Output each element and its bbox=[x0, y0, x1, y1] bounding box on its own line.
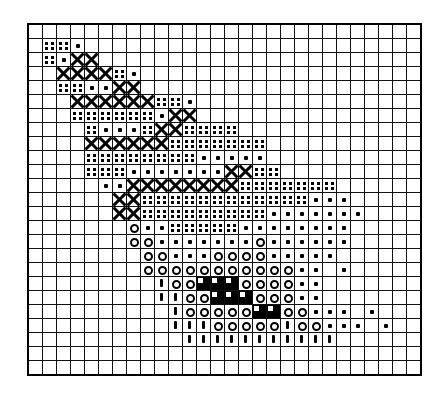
pattern-cell[interactable] bbox=[337, 95, 351, 109]
pattern-cell[interactable] bbox=[211, 319, 225, 333]
pattern-cell[interactable] bbox=[141, 39, 155, 53]
pattern-cell[interactable] bbox=[141, 53, 155, 67]
pattern-cell[interactable] bbox=[253, 137, 267, 151]
pattern-cell[interactable] bbox=[43, 39, 57, 53]
pattern-cell[interactable] bbox=[379, 221, 393, 235]
pattern-cell[interactable] bbox=[99, 39, 113, 53]
pattern-cell[interactable] bbox=[309, 207, 323, 221]
pattern-cell[interactable] bbox=[393, 137, 407, 151]
pattern-cell[interactable] bbox=[351, 333, 365, 347]
pattern-cell[interactable] bbox=[337, 53, 351, 67]
pattern-cell[interactable] bbox=[323, 291, 337, 305]
pattern-cell[interactable] bbox=[337, 277, 351, 291]
pattern-cell[interactable] bbox=[267, 333, 281, 347]
pattern-cell[interactable] bbox=[155, 347, 169, 361]
pattern-cell[interactable] bbox=[127, 109, 141, 123]
pattern-cell[interactable] bbox=[267, 193, 281, 207]
pattern-cell[interactable] bbox=[85, 277, 99, 291]
pattern-cell[interactable] bbox=[253, 235, 267, 249]
pattern-cell[interactable] bbox=[155, 53, 169, 67]
pattern-cell[interactable] bbox=[295, 277, 309, 291]
pattern-cell[interactable] bbox=[379, 39, 393, 53]
pattern-cell[interactable] bbox=[393, 319, 407, 333]
pattern-cell[interactable] bbox=[127, 221, 141, 235]
pattern-cell[interactable] bbox=[365, 95, 379, 109]
pattern-cell[interactable] bbox=[365, 179, 379, 193]
pattern-cell[interactable] bbox=[379, 25, 393, 39]
pattern-cell[interactable] bbox=[365, 109, 379, 123]
pattern-cell[interactable] bbox=[239, 39, 253, 53]
pattern-cell[interactable] bbox=[281, 25, 295, 39]
pattern-cell[interactable] bbox=[407, 137, 421, 151]
pattern-cell[interactable] bbox=[225, 123, 239, 137]
pattern-cell[interactable] bbox=[225, 95, 239, 109]
pattern-cell[interactable] bbox=[281, 263, 295, 277]
pattern-cell[interactable] bbox=[281, 53, 295, 67]
pattern-cell[interactable] bbox=[141, 207, 155, 221]
pattern-cell[interactable] bbox=[71, 221, 85, 235]
pattern-cell[interactable] bbox=[141, 67, 155, 81]
pattern-cell[interactable] bbox=[337, 235, 351, 249]
pattern-cell[interactable] bbox=[267, 221, 281, 235]
pattern-cell[interactable] bbox=[253, 263, 267, 277]
pattern-cell[interactable] bbox=[337, 151, 351, 165]
pattern-cell[interactable] bbox=[113, 137, 127, 151]
pattern-cell[interactable] bbox=[225, 347, 239, 361]
pattern-cell[interactable] bbox=[337, 67, 351, 81]
pattern-cell[interactable] bbox=[155, 319, 169, 333]
pattern-cell[interactable] bbox=[197, 95, 211, 109]
pattern-cell[interactable] bbox=[43, 207, 57, 221]
pattern-cell[interactable] bbox=[183, 123, 197, 137]
pattern-cell[interactable] bbox=[29, 137, 43, 151]
pattern-cell[interactable] bbox=[379, 81, 393, 95]
pattern-cell[interactable] bbox=[239, 347, 253, 361]
pattern-cell[interactable] bbox=[295, 221, 309, 235]
pattern-cell[interactable] bbox=[127, 67, 141, 81]
pattern-cell[interactable] bbox=[71, 67, 85, 81]
pattern-cell[interactable] bbox=[197, 249, 211, 263]
pattern-cell[interactable] bbox=[309, 39, 323, 53]
pattern-cell[interactable] bbox=[43, 53, 57, 67]
pattern-cell[interactable] bbox=[281, 235, 295, 249]
pattern-cell[interactable] bbox=[309, 137, 323, 151]
pattern-cell[interactable] bbox=[295, 291, 309, 305]
pattern-cell[interactable] bbox=[85, 361, 99, 375]
pattern-cell[interactable] bbox=[113, 95, 127, 109]
pattern-cell[interactable] bbox=[351, 291, 365, 305]
pattern-cell[interactable] bbox=[183, 347, 197, 361]
pattern-cell[interactable] bbox=[365, 25, 379, 39]
pattern-cell[interactable] bbox=[309, 277, 323, 291]
pattern-cell[interactable] bbox=[225, 67, 239, 81]
pattern-cell[interactable] bbox=[323, 109, 337, 123]
pattern-cell[interactable] bbox=[183, 53, 197, 67]
pattern-cell[interactable] bbox=[393, 109, 407, 123]
pattern-cell[interactable] bbox=[169, 165, 183, 179]
pattern-cell[interactable] bbox=[99, 305, 113, 319]
pattern-cell[interactable] bbox=[379, 109, 393, 123]
pattern-cell[interactable] bbox=[337, 263, 351, 277]
pattern-cell[interactable] bbox=[197, 151, 211, 165]
pattern-cell[interactable] bbox=[141, 361, 155, 375]
pattern-cell[interactable] bbox=[351, 193, 365, 207]
pattern-cell[interactable] bbox=[183, 165, 197, 179]
pattern-cell[interactable] bbox=[337, 361, 351, 375]
pattern-cell[interactable] bbox=[211, 361, 225, 375]
pattern-cell[interactable] bbox=[183, 361, 197, 375]
pattern-cell[interactable] bbox=[267, 305, 281, 319]
pattern-cell[interactable] bbox=[379, 277, 393, 291]
pattern-cell[interactable] bbox=[365, 319, 379, 333]
pattern-cell[interactable] bbox=[155, 249, 169, 263]
pattern-cell[interactable] bbox=[211, 291, 225, 305]
pattern-cell[interactable] bbox=[281, 193, 295, 207]
pattern-cell[interactable] bbox=[127, 319, 141, 333]
pattern-cell[interactable] bbox=[197, 221, 211, 235]
pattern-cell[interactable] bbox=[127, 235, 141, 249]
pattern-cell[interactable] bbox=[253, 95, 267, 109]
pattern-cell[interactable] bbox=[57, 361, 71, 375]
pattern-cell[interactable] bbox=[407, 179, 421, 193]
pattern-cell[interactable] bbox=[239, 165, 253, 179]
pattern-cell[interactable] bbox=[99, 249, 113, 263]
pattern-cell[interactable] bbox=[57, 291, 71, 305]
pattern-cell[interactable] bbox=[225, 151, 239, 165]
pattern-cell[interactable] bbox=[141, 333, 155, 347]
